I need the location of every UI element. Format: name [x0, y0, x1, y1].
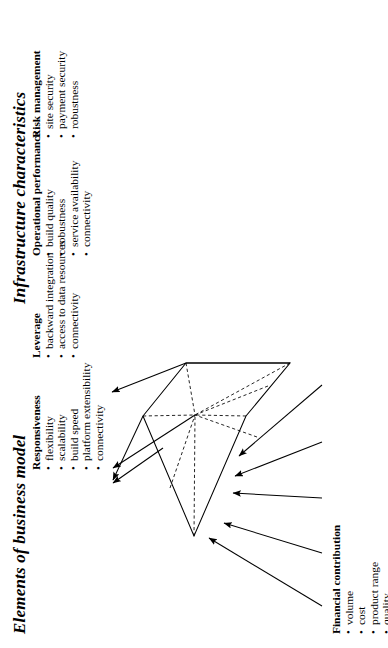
diagram-canvas: Elements of business model Infrastructur…: [0, 0, 388, 648]
list-financial-contribution: volume cost product range quality niche …: [343, 525, 388, 634]
block-leverage: Leverage backward integration access to …: [30, 241, 80, 358]
list-item: build speed: [68, 363, 81, 470]
heading-responsiveness: Responsiveness: [30, 363, 43, 470]
list-operational-performance: build quality robustness service availab…: [43, 132, 93, 256]
list-item: connectivity: [80, 132, 93, 256]
list-responsiveness: flexibility scalability build speed plat…: [43, 363, 106, 470]
list-item: backward integration: [43, 241, 56, 358]
list-item: quality: [380, 525, 388, 634]
figure-page: Elements of business model Infrastructur…: [0, 0, 388, 648]
arrows-to-infrastructure: [112, 363, 195, 483]
list-item: build quality: [43, 132, 56, 256]
heading-risk-management: Risk management: [30, 50, 43, 138]
list-item: robustness: [55, 132, 68, 256]
list-item: site security: [43, 50, 56, 138]
list-risk-management: site security payment security robustnes…: [43, 50, 81, 138]
list-item: access to data resources: [55, 241, 68, 358]
right-title: Infrastructure characteristics: [10, 92, 30, 304]
list-item: product range: [368, 525, 381, 634]
block-financial-contribution: Financial contribution volume cost produ…: [330, 525, 388, 634]
hull-outline: [143, 363, 290, 536]
list-item: cost: [355, 525, 368, 634]
list-item: flexibility: [43, 363, 56, 470]
list-item: connectivity: [93, 363, 106, 470]
list-item: scalability: [55, 363, 68, 470]
list-leverage: backward integration access to data reso…: [43, 241, 81, 358]
heading-leverage: Leverage: [30, 241, 43, 358]
block-responsiveness: Responsiveness flexibility scalability b…: [30, 363, 106, 470]
list-item: robustness: [68, 50, 81, 138]
heading-financial-contribution: Financial contribution: [330, 525, 343, 634]
left-title: Elements of business model: [10, 435, 30, 634]
list-item: volume: [343, 525, 356, 634]
arrows-from-business-model: [209, 385, 322, 606]
list-item: payment security: [55, 50, 68, 138]
heading-operational-performance: Operational performance: [30, 132, 43, 256]
list-item: connectivity: [68, 241, 81, 358]
list-item: service availability: [68, 132, 81, 256]
list-item: platform extensibility: [80, 363, 93, 470]
block-risk-management: Risk management site security payment se…: [30, 50, 80, 138]
block-operational-performance: Operational performance build quality ro…: [30, 132, 93, 256]
